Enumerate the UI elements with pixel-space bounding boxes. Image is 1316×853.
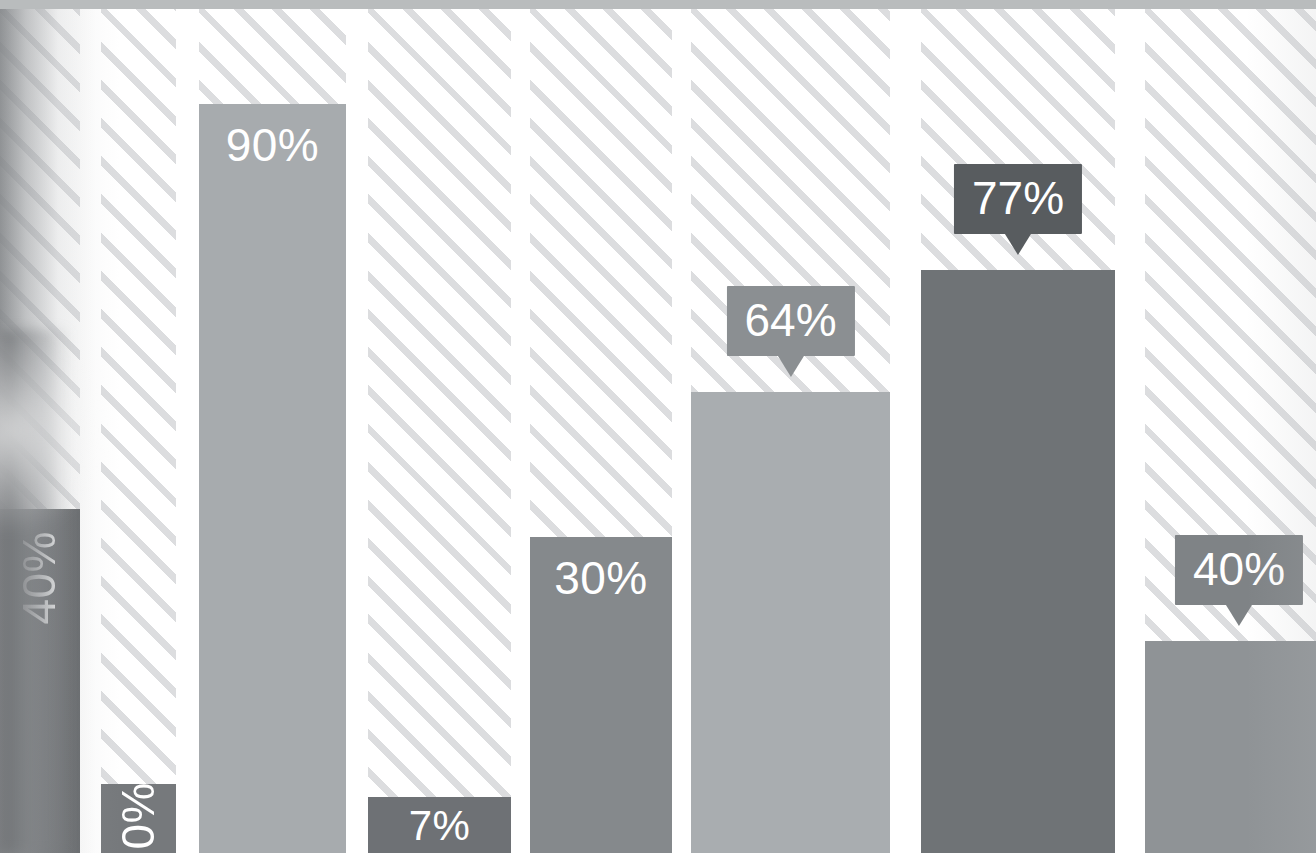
bar-value-label-2: 0% <box>115 782 161 849</box>
bar-value-label-5: 30% <box>530 555 672 601</box>
bar-value-label-1: 40% <box>16 531 62 625</box>
plot-area: 40% 0% 90% 7% 30% <box>0 9 1316 853</box>
bar-fill-2[interactable]: 0% <box>101 784 176 853</box>
bar-column-3[interactable]: 90% <box>199 9 346 853</box>
callout-pointer-icon-7 <box>1005 234 1031 255</box>
bar-fill-8[interactable] <box>1145 641 1316 853</box>
bar-fill-3[interactable]: 90% <box>199 104 346 853</box>
bar-fill-5[interactable]: 30% <box>530 537 672 853</box>
bar-column-1[interactable]: 40% <box>0 9 80 853</box>
bar-callout-6: 64% <box>726 286 854 356</box>
bar-column-4[interactable]: 7% <box>368 9 511 853</box>
bar-column-6[interactable]: 64% <box>691 9 890 853</box>
bar-callout-8: 40% <box>1175 535 1303 605</box>
bar-column-8[interactable]: 40% <box>1145 9 1316 853</box>
bar-value-label-3: 90% <box>199 122 346 168</box>
bar-track-4 <box>368 9 511 853</box>
top-band <box>0 0 1316 9</box>
bar-column-5[interactable]: 30% <box>530 9 672 853</box>
bar-fill-6[interactable] <box>691 392 890 853</box>
bar-track-2 <box>101 9 176 853</box>
bar-column-7[interactable]: 77% <box>921 9 1115 853</box>
callout-pointer-icon-8 <box>1226 605 1252 626</box>
bar-fill-1[interactable]: 40% <box>0 509 80 853</box>
bar-value-label-7: 77% <box>972 172 1064 224</box>
bar-value-label-8: 40% <box>1193 543 1285 595</box>
bar-fill-4[interactable]: 7% <box>368 797 511 853</box>
bar-value-label-6: 64% <box>744 294 836 346</box>
bar-callout-7: 77% <box>954 164 1082 234</box>
callout-pointer-icon-6 <box>777 356 803 377</box>
bar-column-2[interactable]: 0% <box>101 9 176 853</box>
bar-fill-7[interactable] <box>921 270 1115 853</box>
bar-value-label-4: 7% <box>368 805 511 847</box>
chart-canvas: 40% 0% 90% 7% 30% <box>0 0 1316 853</box>
